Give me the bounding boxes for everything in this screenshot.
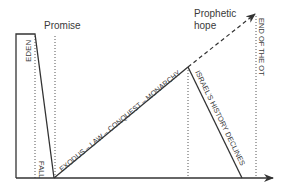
prophetic-hope-label-line1: Prophetic (194, 8, 236, 19)
decline-line (188, 67, 242, 178)
prophetic-hope-label-line2: hope (194, 20, 217, 31)
end-ot-label: END OF THE OT (257, 18, 266, 76)
ascent-label: EXODUS – LAW – CONQUEST – MONARCHY (58, 68, 183, 173)
eden-label: EDEN (24, 40, 33, 62)
fall-label: FALL (37, 161, 46, 179)
ot-history-diagram: EDEN Promise FALL EXODUS – LAW – CONQUES… (0, 0, 289, 188)
decline-label: ISRAEL'S HISTORY DECLINES (193, 69, 247, 167)
promise-label: Promise (44, 20, 81, 31)
